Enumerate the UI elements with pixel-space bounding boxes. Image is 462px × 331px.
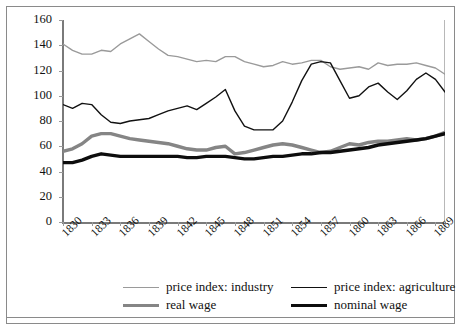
legend-swatch-icon — [291, 304, 327, 307]
legend-entry: price index: agriculture — [291, 279, 455, 295]
legend-entry: price index: industry — [123, 279, 274, 295]
y-tick-label: 160 — [26, 13, 52, 26]
y-tick-label: 100 — [26, 89, 52, 102]
legend-separator — [6, 317, 455, 318]
legend-label: price index: agriculture — [334, 279, 455, 295]
legend-swatch-icon — [123, 287, 159, 288]
chart-legend: price index: industryprice index: agricu… — [63, 279, 445, 315]
chart-figure: 020406080100120140160 183018331836183918… — [0, 0, 462, 331]
y-tick-label: 20 — [26, 190, 52, 203]
y-tick-label: 140 — [26, 38, 52, 51]
y-tick-label: 120 — [26, 64, 52, 77]
legend-entry: real wage — [123, 297, 216, 313]
legend-label: price index: industry — [166, 279, 274, 295]
plot-area — [63, 20, 445, 222]
legend-label: nominal wage — [334, 297, 407, 313]
legend-swatch-icon — [123, 304, 159, 307]
legend-entry: nominal wage — [291, 297, 407, 313]
y-tick-label: 80 — [26, 114, 52, 127]
y-tick-label: 60 — [26, 139, 52, 152]
y-tick-label: 0 — [26, 215, 52, 228]
legend-swatch-icon — [291, 287, 327, 288]
y-tick-label: 40 — [26, 165, 52, 178]
legend-label: real wage — [166, 297, 216, 313]
